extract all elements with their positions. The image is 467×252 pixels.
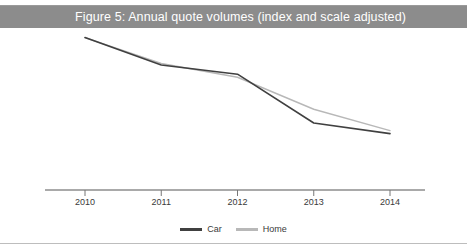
legend-label: Car bbox=[207, 224, 222, 235]
x-axis-tick-label: 2010 bbox=[63, 196, 107, 208]
legend-label: Home bbox=[263, 224, 287, 235]
line-chart-svg bbox=[0, 28, 467, 213]
chart-legend: CarHome bbox=[0, 222, 467, 236]
x-axis-tick-label: 2011 bbox=[139, 196, 183, 208]
bottom-divider bbox=[0, 243, 467, 244]
x-axis-tick-label: 2014 bbox=[368, 196, 412, 208]
figure-container: Figure 5: Annual quote volumes (index an… bbox=[0, 0, 467, 252]
series-line-home bbox=[85, 38, 390, 131]
legend-swatch-home-icon bbox=[236, 228, 258, 231]
legend-entry-home[interactable]: Home bbox=[236, 224, 287, 235]
x-axis-tick-label: 2013 bbox=[292, 196, 336, 208]
chart-plot-area bbox=[0, 28, 467, 213]
legend-swatch-car-icon bbox=[180, 228, 202, 231]
figure-title: Figure 5: Annual quote volumes (index an… bbox=[61, 10, 406, 24]
series-line-car bbox=[85, 38, 390, 134]
figure-title-band: Figure 5: Annual quote volumes (index an… bbox=[0, 5, 467, 28]
x-axis-tick-label: 2012 bbox=[216, 196, 260, 208]
series-layer bbox=[85, 38, 390, 134]
legend-entry-car[interactable]: Car bbox=[180, 224, 222, 235]
x-axis-tick-labels: 20102011201220132014 bbox=[0, 196, 467, 212]
